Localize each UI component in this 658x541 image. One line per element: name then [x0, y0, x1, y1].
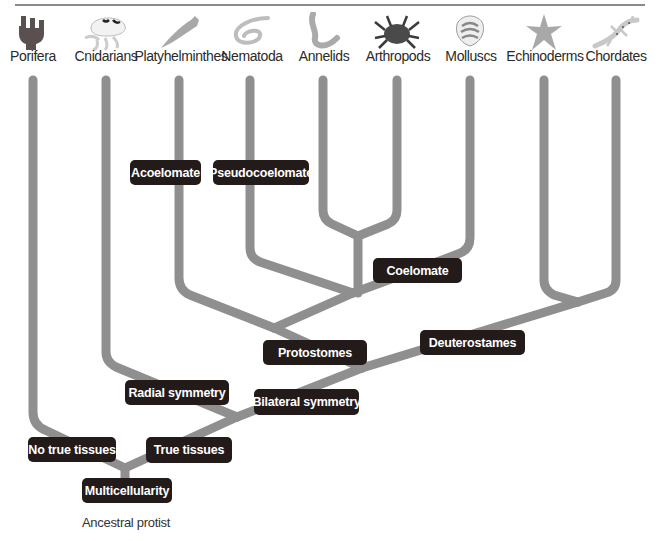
branch-echinoderms — [544, 80, 578, 302]
branch-annelids — [323, 80, 358, 236]
taxon-label-cnidarians: Cnidarians — [75, 48, 138, 64]
taxon-label-echinoderms: Echinoderms — [506, 48, 583, 64]
scallop-shell-icon — [450, 12, 490, 52]
segmented-worm-icon — [303, 12, 343, 52]
jellyfish-icon — [81, 12, 131, 52]
phylogenetic-tree-diagram: Porifera Cnidarians Platyhelminthes Nema… — [0, 0, 658, 541]
branch-chordates — [578, 80, 616, 302]
branch-molluscs — [437, 80, 470, 262]
trait-coelomate: Coelomate — [373, 258, 462, 283]
taxon-label-porifera: Porifera — [10, 48, 56, 64]
trait-true-tissues: True tissues — [146, 437, 232, 463]
trait-protostomes: Protostomes — [263, 340, 367, 365]
branch-protostome-upper — [274, 293, 353, 328]
branch-arthropods — [358, 80, 397, 236]
branch-porifera — [33, 80, 125, 468]
branch-cnidarians — [106, 80, 237, 417]
trait-no-true-tissues: No true tissues — [28, 437, 116, 462]
sponge-icon — [13, 12, 53, 52]
taxon-label-annelids: Annelids — [299, 48, 350, 64]
roundworm-icon — [228, 12, 272, 52]
trait-radial-symmetry: Radial symmetry — [125, 380, 229, 405]
trait-deuterostames: Deuterostames — [420, 330, 525, 355]
gecko-icon — [591, 12, 641, 52]
crab-icon — [371, 12, 423, 52]
trait-multicellularity: Multicellularity — [82, 478, 172, 503]
trait-pseudocoelomate: Pseudocoelomate — [213, 160, 309, 185]
taxon-label-molluscs: Molluscs — [445, 48, 496, 64]
taxon-label-platyhelminthes: Platyhelminthes — [135, 48, 228, 64]
branch-nematoda — [250, 80, 353, 293]
branch-platyhelminthes — [179, 80, 274, 328]
starfish-icon — [522, 12, 566, 52]
taxon-label-chordates: Chordates — [586, 48, 647, 64]
flatworm-icon — [157, 12, 201, 52]
taxon-label-arthropods: Arthropods — [366, 48, 430, 64]
taxon-label-nematoda: Nematoda — [221, 48, 282, 64]
trait-acoelomate: Acoelomate — [130, 160, 201, 185]
trait-bilateral-symmetry: Bilateral symmetry — [254, 389, 359, 415]
root-label-ancestral-protist: Ancestral protist — [82, 515, 170, 530]
